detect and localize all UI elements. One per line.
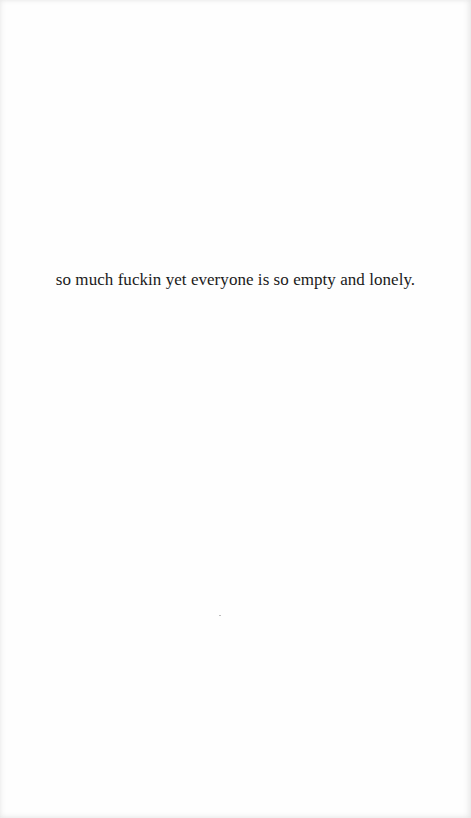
paper-speck (219, 615, 221, 616)
quote-text: so much fuckin yet everyone is so empty … (0, 268, 471, 292)
document-page: so much fuckin yet everyone is so empty … (0, 0, 471, 818)
